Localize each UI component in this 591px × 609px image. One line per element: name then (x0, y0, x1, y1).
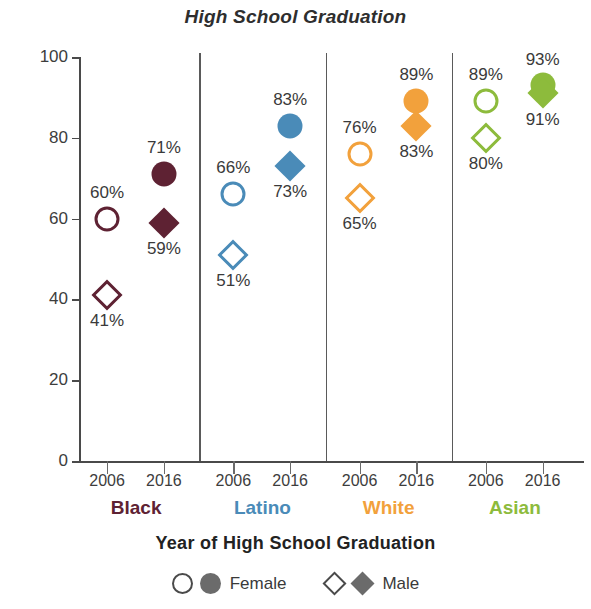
data-label-latino-2006-male: 51% (216, 271, 250, 291)
data-point-latino-2016-female (278, 113, 303, 138)
data-label-white-2006-female: 76% (343, 118, 377, 138)
data-point-black-2006-male (92, 280, 123, 311)
data-point-white-2016-male (401, 110, 432, 141)
group-divider (326, 53, 328, 461)
data-label-latino-2016-male: 73% (273, 182, 307, 202)
x-tick-label: 2016 (146, 472, 182, 490)
legend-item-male: Male (324, 573, 419, 594)
y-tick-label: 0 (59, 451, 68, 471)
y-tick (72, 138, 80, 140)
chart-title: High School Graduation (0, 6, 591, 28)
x-axis-title: Year of High School Graduation (0, 533, 591, 554)
y-tick (72, 461, 80, 463)
data-point-black-2016-male (148, 207, 179, 238)
data-label-latino-2016-female: 83% (273, 90, 307, 110)
data-label-asian-2016-male: 91% (526, 110, 560, 130)
y-tick-label: 60 (49, 209, 68, 229)
x-tick-label: 2016 (272, 472, 308, 490)
data-label-white-2016-male: 83% (399, 142, 433, 162)
data-label-white-2016-female: 89% (399, 65, 433, 85)
y-tick (72, 380, 80, 382)
x-tick-label: 2006 (468, 472, 504, 490)
group-label-black: Black (111, 497, 162, 519)
data-label-white-2006-male: 65% (343, 214, 377, 234)
data-label-asian-2006-male: 80% (469, 154, 503, 174)
data-label-asian-2006-female: 89% (469, 65, 503, 85)
y-tick (72, 57, 80, 59)
group-divider (199, 53, 201, 461)
chart-container: High School Graduation 020406080100 2006… (0, 0, 591, 609)
y-tick (72, 299, 80, 301)
x-tick-label: 2006 (216, 472, 252, 490)
data-label-black-2006-male: 41% (90, 311, 124, 331)
data-label-black-2016-female: 71% (147, 138, 181, 158)
group-label-latino: Latino (234, 497, 291, 519)
data-point-white-2006-female (347, 141, 372, 166)
group-label-white: White (363, 497, 415, 519)
circle-filled-icon (200, 573, 221, 594)
y-tick-label: 80 (49, 128, 68, 148)
legend-label-male: Male (382, 574, 419, 594)
x-tick-label: 2016 (525, 472, 561, 490)
data-label-black-2006-female: 60% (90, 183, 124, 203)
data-point-black-2016-female (151, 162, 176, 187)
legend-label-female: Female (230, 574, 287, 594)
x-axis-line (79, 461, 584, 463)
plot-area: 020406080100 200620162006201620062016200… (79, 57, 584, 461)
y-axis-line (79, 57, 81, 461)
data-point-asian-2006-female (473, 89, 498, 114)
data-point-asian-2006-male (470, 122, 501, 153)
y-tick-label: 40 (49, 289, 68, 309)
data-label-latino-2006-female: 66% (216, 158, 250, 178)
legend-item-female: Female (172, 573, 287, 594)
group-label-asian: Asian (489, 497, 541, 519)
data-point-white-2006-male (344, 183, 375, 214)
diamond-filled-icon (351, 571, 375, 595)
y-tick (72, 219, 80, 221)
y-tick-label: 20 (49, 370, 68, 390)
data-point-latino-2016-male (275, 151, 306, 182)
chart-legend: Female Male (0, 573, 591, 594)
group-divider (452, 53, 454, 461)
diamond-open-icon (323, 571, 347, 595)
data-point-latino-2006-female (221, 182, 246, 207)
x-tick-label: 2006 (342, 472, 378, 490)
data-label-black-2016-male: 59% (147, 239, 181, 259)
data-label-asian-2016-female: 93% (526, 50, 560, 70)
x-tick-label: 2016 (399, 472, 435, 490)
circle-open-icon (172, 573, 193, 594)
data-point-latino-2006-male (218, 239, 249, 270)
data-point-black-2006-female (95, 206, 120, 231)
y-tick-label: 100 (40, 47, 68, 67)
x-tick-label: 2006 (89, 472, 125, 490)
